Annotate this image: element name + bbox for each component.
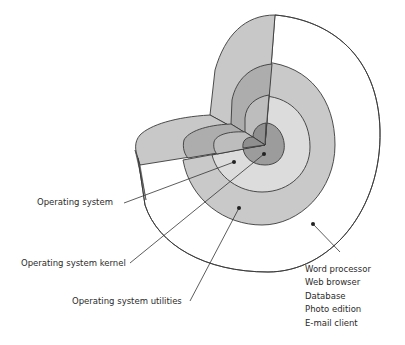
app-item: Photo edition: [305, 303, 371, 316]
app-item: Database: [305, 290, 371, 303]
applications-list: Word processor Web browser Database Phot…: [305, 263, 371, 330]
app-item: E-mail client: [305, 317, 371, 330]
app-item: Web browser: [305, 276, 371, 289]
label-utilities: Operating system utilities: [72, 297, 182, 306]
label-kernel: Operating system kernel: [21, 259, 126, 268]
app-item: Word processor: [305, 263, 371, 276]
label-operating-system: Operating system: [37, 198, 113, 207]
